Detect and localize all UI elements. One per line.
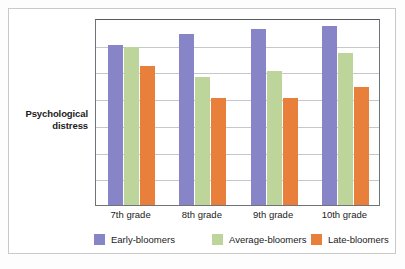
legend-item-average-bloomers[interactable]: Average-bloomers <box>212 232 306 246</box>
bar <box>338 53 353 205</box>
bar <box>251 29 266 205</box>
legend-label: Early-bloomers <box>111 234 175 245</box>
bar-group <box>108 20 155 205</box>
legend-item-late-bloomers[interactable]: Late-bloomers <box>311 232 389 246</box>
legend-label: Average-bloomers <box>229 234 306 245</box>
bar-group <box>251 20 298 205</box>
bar <box>124 47 139 205</box>
legend-label: Late-bloomers <box>328 234 389 245</box>
bar <box>140 66 155 205</box>
y-axis-label: Psychological distress <box>8 108 88 131</box>
bar <box>354 87 369 205</box>
bar <box>283 98 298 205</box>
x-axis-tick-label: 10th grade <box>304 209 384 220</box>
bar <box>322 26 337 205</box>
bar <box>267 71 282 205</box>
bar-group <box>322 20 369 205</box>
plot-area <box>95 19 380 206</box>
y-axis-label-line-1: Psychological <box>8 108 88 120</box>
bar <box>211 98 226 205</box>
legend-swatch <box>212 234 223 245</box>
bar-group <box>179 20 226 205</box>
x-axis-tick-labels: 7th grade8th grade9th grade10th grade <box>95 209 380 225</box>
figure-canvas: Psychological distress 7th grade8th grad… <box>0 0 405 269</box>
x-axis-tick-label: 7th grade <box>91 209 171 220</box>
legend-item-early-bloomers[interactable]: Early-bloomers <box>94 232 175 246</box>
y-axis-label-line-2: distress <box>8 120 88 132</box>
x-axis-tick-label: 9th grade <box>233 209 313 220</box>
bar <box>195 77 210 205</box>
legend-swatch <box>311 234 322 245</box>
bar-series-container <box>96 20 379 205</box>
legend-swatch <box>94 234 105 245</box>
bar <box>108 45 123 205</box>
chart-legend: Early-bloomersAverage-bloomersLate-bloom… <box>88 232 388 246</box>
x-axis-tick-label: 8th grade <box>162 209 242 220</box>
bar <box>179 34 194 205</box>
